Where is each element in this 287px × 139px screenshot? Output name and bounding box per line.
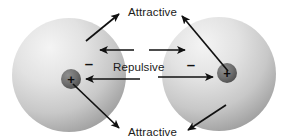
force-diagram: + – + – Attractive Repulsive Attractive (0, 0, 287, 139)
left-electron-minus-sign: – (85, 55, 93, 72)
repulsive-label: Repulsive (113, 61, 164, 73)
left-atom: + – (12, 18, 126, 132)
right-atom: + – (162, 17, 276, 131)
force-diagram-canvas: + – + – Attractive Repulsive Attractive (0, 0, 287, 139)
right-electron-minus-sign: – (187, 56, 195, 73)
attractive-bottom-label: Attractive (128, 126, 177, 138)
right-nucleus-plus-sign: + (223, 66, 231, 81)
attractive-top-label: Attractive (128, 6, 177, 18)
